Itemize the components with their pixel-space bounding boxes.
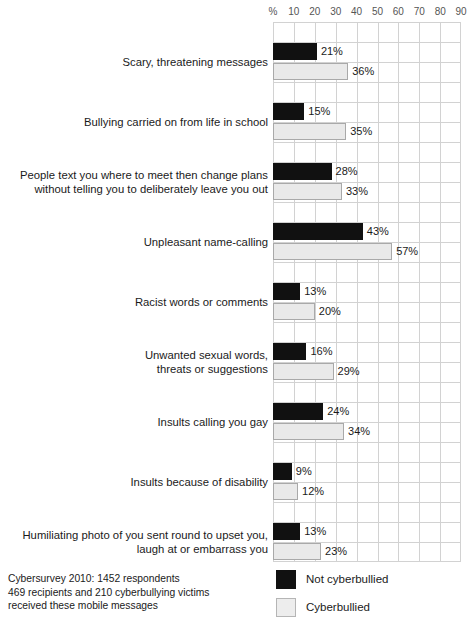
bar-value-cyberbullied: 57% xyxy=(392,243,418,260)
x-axis-tick-40: 40 xyxy=(346,5,367,18)
bar-value-cyberbullied: 35% xyxy=(346,123,372,140)
gridline-vertical xyxy=(398,22,399,562)
gridline-vertical xyxy=(378,22,379,562)
bar-cyberbullied xyxy=(273,423,344,440)
category-label: Insults because of disability xyxy=(0,475,268,489)
bar-not-cyberbullied xyxy=(273,463,292,480)
bar-value-cyberbullied: 20% xyxy=(315,303,341,320)
gridline-vertical xyxy=(419,22,420,562)
bar-value-not-cyberbullied: 28% xyxy=(332,163,358,180)
bar-cyberbullied xyxy=(273,243,392,260)
category-label-line: People text you where to meet then chang… xyxy=(0,168,268,182)
bar-not-cyberbullied xyxy=(273,523,300,540)
legend-swatch-cyberbullied xyxy=(276,598,296,617)
category-label-line: threats or suggestions xyxy=(0,362,268,376)
category-label-line: Unwanted sexual words, xyxy=(0,348,268,362)
legend-item: Not cyberbullied xyxy=(276,568,461,596)
category-label: Racist words or comments xyxy=(0,295,268,309)
bar-value-cyberbullied: 36% xyxy=(348,63,374,80)
bar-cyberbullied xyxy=(273,63,348,80)
gridline-horizontal xyxy=(273,322,461,323)
bar-value-cyberbullied: 29% xyxy=(334,363,360,380)
footnote-line: 469 recipients and 210 cyberbullying vic… xyxy=(8,586,258,600)
gridline-horizontal xyxy=(273,442,461,443)
x-axis-tick-labels: %102030405060708090 xyxy=(273,5,461,19)
category-label-line: without telling you to deliberately leav… xyxy=(0,182,268,196)
category-label: Bullying carried on from life in school xyxy=(0,115,268,129)
x-axis-tick-30: 30 xyxy=(325,5,346,18)
x-axis-tick-50: 50 xyxy=(367,5,388,18)
gridline-horizontal xyxy=(273,561,461,562)
legend-swatch-not-cyberbullied xyxy=(276,570,296,589)
category-label: People text you where to meet then chang… xyxy=(0,168,268,196)
cropped-header-remnant xyxy=(60,0,280,4)
x-axis-tick-70: 70 xyxy=(409,5,430,18)
legend-label: Cyberbullied xyxy=(306,598,370,617)
x-axis-tick-20: 20 xyxy=(304,5,325,18)
gridline-vertical xyxy=(357,22,358,562)
bar-not-cyberbullied xyxy=(273,223,363,240)
bar-not-cyberbullied xyxy=(273,103,304,120)
gridline-vertical xyxy=(440,22,441,562)
x-axis-tick-80: 80 xyxy=(430,5,451,18)
category-label-line: Unpleasant name-calling xyxy=(0,235,268,249)
gridline-horizontal xyxy=(273,502,461,503)
gridline-horizontal xyxy=(273,202,461,203)
gridline-horizontal xyxy=(273,262,461,263)
bar-value-cyberbullied: 12% xyxy=(298,483,324,500)
bar-cyberbullied xyxy=(273,363,334,380)
bar-cyberbullied xyxy=(273,483,298,500)
category-label-line: Insults calling you gay xyxy=(0,415,268,429)
bar-not-cyberbullied xyxy=(273,43,317,60)
bar-cyberbullied xyxy=(273,183,342,200)
chart-container: %102030405060708090 21%36%15%35%28%33%43… xyxy=(0,0,468,635)
legend-label: Not cyberbullied xyxy=(306,570,388,589)
category-label-line: laugh at or embarrass you xyxy=(0,542,268,556)
bar-value-not-cyberbullied: 16% xyxy=(306,343,332,360)
bar-cyberbullied xyxy=(273,543,321,560)
gridline-horizontal xyxy=(273,142,461,143)
gridline-horizontal xyxy=(273,22,461,23)
category-label: Insults calling you gay xyxy=(0,415,268,429)
bar-not-cyberbullied xyxy=(273,403,323,420)
category-label-line: Humiliating photo of you sent round to u… xyxy=(0,528,268,542)
x-axis-tick-percent: % xyxy=(263,5,284,18)
x-axis-tick-60: 60 xyxy=(388,5,409,18)
gridline-horizontal xyxy=(273,82,461,83)
gridline-horizontal xyxy=(273,382,461,383)
bar-value-not-cyberbullied: 9% xyxy=(292,463,312,480)
bar-value-cyberbullied: 23% xyxy=(321,543,347,560)
x-axis-tick-10: 10 xyxy=(283,5,304,18)
gridline-vertical xyxy=(336,22,337,562)
bar-value-cyberbullied: 34% xyxy=(344,423,370,440)
bar-value-cyberbullied: 33% xyxy=(342,183,368,200)
footnote-line: Cybersurvey 2010: 1452 respondents xyxy=(8,572,258,586)
category-label-line: Scary, threatening messages xyxy=(0,55,268,69)
bar-value-not-cyberbullied: 13% xyxy=(300,523,326,540)
category-label: Unwanted sexual words,threats or suggest… xyxy=(0,348,268,376)
bar-not-cyberbullied xyxy=(273,163,332,180)
bar-not-cyberbullied xyxy=(273,343,306,360)
bar-cyberbullied xyxy=(273,303,315,320)
category-label: Scary, threatening messages xyxy=(0,55,268,69)
bar-value-not-cyberbullied: 21% xyxy=(317,43,343,60)
bar-value-not-cyberbullied: 15% xyxy=(304,103,330,120)
bar-cyberbullied xyxy=(273,123,346,140)
gridline-vertical xyxy=(460,22,461,562)
legend: Not cyberbulliedCyberbullied xyxy=(276,568,461,624)
bar-value-not-cyberbullied: 43% xyxy=(363,223,389,240)
footnote: Cybersurvey 2010: 1452 respondents469 re… xyxy=(8,572,258,613)
category-label-line: Bullying carried on from life in school xyxy=(0,115,268,129)
footnote-line: received these mobile messages xyxy=(8,599,258,613)
category-label: Humiliating photo of you sent round to u… xyxy=(0,528,268,556)
category-label-line: Insults because of disability xyxy=(0,475,268,489)
legend-item: Cyberbullied xyxy=(276,596,461,624)
bar-value-not-cyberbullied: 13% xyxy=(300,283,326,300)
plot-area: 21%36%15%35%28%33%43%57%13%20%16%29%24%3… xyxy=(273,22,461,562)
x-axis-tick-90: 90 xyxy=(451,5,468,18)
bar-value-not-cyberbullied: 24% xyxy=(323,403,349,420)
bar-not-cyberbullied xyxy=(273,283,300,300)
category-label: Unpleasant name-calling xyxy=(0,235,268,249)
category-label-line: Racist words or comments xyxy=(0,295,268,309)
